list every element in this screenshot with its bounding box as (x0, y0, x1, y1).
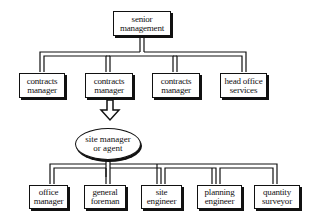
node-general-foreman: generalforeman (84, 185, 126, 209)
node-head-office-services: head officeservices (220, 73, 267, 98)
node-label: services (230, 85, 257, 95)
node-planning-engineer: planningengineer (197, 185, 242, 209)
node-label: engineer (147, 196, 176, 206)
node-contracts-manager-1: contractsmanager (19, 73, 65, 98)
node-office-manager: officemanager (29, 185, 68, 209)
node-label: manager (34, 196, 64, 206)
node-label: manager (27, 85, 57, 95)
node-label: surveyor (262, 196, 292, 206)
node-site-manager: site manageror agent (75, 128, 141, 160)
node-contracts-manager-2: contractsmanager (85, 73, 133, 98)
org-chart: seniormanagement contractsmanager contra… (0, 0, 315, 222)
node-senior-management: seniormanagement (113, 11, 171, 36)
node-label: manager (94, 85, 124, 95)
node-label: engineer (205, 196, 234, 206)
node-contracts-manager-3: contractsmanager (152, 73, 200, 98)
node-quantity-surveyor: quantitysurveyor (254, 185, 300, 209)
node-label: or agent (93, 143, 122, 153)
node-site-engineer: siteengineer (141, 185, 182, 209)
node-label: manager (161, 85, 191, 95)
node-label: management (120, 23, 164, 33)
node-label: foreman (91, 196, 120, 206)
